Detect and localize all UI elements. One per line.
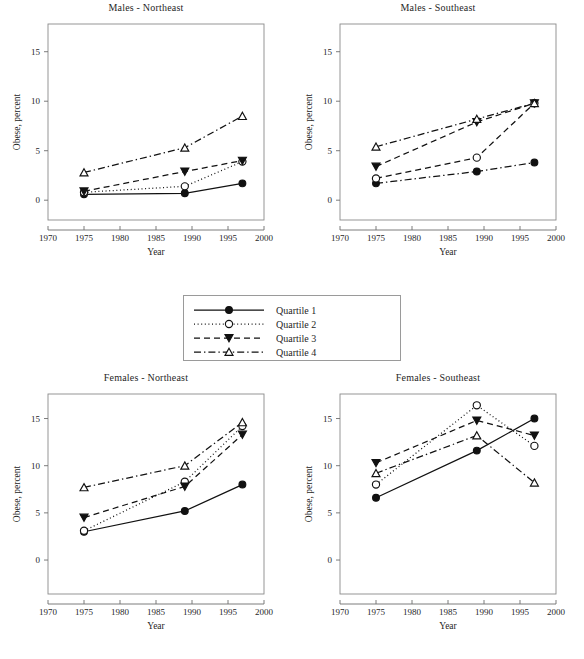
y-tick-label: 10 <box>323 461 333 471</box>
legend-box: Quartile 1Quartile 2Quartile 3Quartile 4 <box>183 295 401 361</box>
chart-svg: 0510151970197519801985199019952000YearOb… <box>292 2 584 274</box>
legend-item[interactable]: Quartile 1 <box>192 303 392 317</box>
data-point-marker <box>473 432 481 439</box>
x-tick-label: 1985 <box>439 233 458 243</box>
data-point-marker <box>373 494 380 501</box>
panel-title: Females - Northeast <box>0 372 292 383</box>
x-tick-label: 1985 <box>439 607 458 617</box>
x-tick-label: 1995 <box>219 607 238 617</box>
data-point-marker <box>372 481 379 488</box>
series-line <box>376 419 534 498</box>
x-tick-label: 1985 <box>147 607 166 617</box>
y-tick-label: 10 <box>323 96 333 106</box>
data-point-marker <box>239 180 246 187</box>
legend-label: Quartile 1 <box>266 305 316 316</box>
series-line <box>84 485 242 532</box>
x-tick-label: 1975 <box>367 607 386 617</box>
figure-canvas: Males - Northeast05101519701975198019851… <box>0 0 584 659</box>
series-line <box>376 103 534 147</box>
y-tick-label: 0 <box>328 195 333 205</box>
x-tick-label: 1995 <box>219 233 238 243</box>
x-axis-title: Year <box>147 247 165 257</box>
panel-title: Females - Southeast <box>292 372 584 383</box>
data-point-marker <box>80 514 88 521</box>
series-line <box>84 161 242 192</box>
x-tick-label: 2000 <box>255 233 274 243</box>
plot-frame <box>48 394 264 594</box>
data-point-marker <box>372 163 380 170</box>
y-tick-label: 15 <box>31 47 41 57</box>
x-tick-label: 1990 <box>183 607 202 617</box>
data-point-marker <box>238 431 246 438</box>
data-point-marker <box>238 419 246 426</box>
legend-item[interactable]: Quartile 4 <box>192 345 392 359</box>
data-point-marker <box>531 442 538 449</box>
series-line <box>84 183 242 194</box>
x-tick-label: 1970 <box>39 233 58 243</box>
data-point-marker <box>473 154 480 161</box>
x-tick-label: 1970 <box>331 233 350 243</box>
x-tick-label: 1980 <box>111 607 130 617</box>
data-point-marker <box>473 402 480 409</box>
y-tick-label: 0 <box>328 555 333 565</box>
series-line <box>376 103 534 166</box>
data-point-marker <box>372 459 380 466</box>
x-axis-title: Year <box>147 621 165 631</box>
legend-label: Quartile 2 <box>266 319 316 330</box>
chart-panel: Males - Northeast05101519701975198019851… <box>0 2 292 274</box>
x-tick-label: 1975 <box>367 233 386 243</box>
y-axis-title: Obese, percent <box>304 465 314 522</box>
data-point-marker <box>530 432 538 439</box>
x-axis-title: Year <box>439 247 457 257</box>
legend-sample <box>192 331 266 345</box>
data-point-marker <box>80 527 87 534</box>
y-tick-label: 5 <box>36 146 41 156</box>
x-axis-title: Year <box>439 621 457 631</box>
data-point-marker <box>239 481 246 488</box>
x-tick-label: 1970 <box>39 607 58 617</box>
y-axis-title: Obese, percent <box>12 465 22 522</box>
legend-marker <box>225 320 232 327</box>
y-tick-label: 15 <box>323 47 333 57</box>
data-point-marker <box>181 168 189 175</box>
data-point-marker <box>238 112 246 119</box>
legend-sample <box>192 345 266 359</box>
legend-marker <box>226 307 233 314</box>
chart-panel: Females - Northeast051015197019751980198… <box>0 372 292 659</box>
y-tick-label: 15 <box>323 414 333 424</box>
data-point-marker <box>531 415 538 422</box>
y-tick-label: 5 <box>328 146 333 156</box>
plot-frame <box>340 24 556 220</box>
y-tick-label: 10 <box>31 461 41 471</box>
chart-svg: 0510151970197519801985199019952000YearOb… <box>0 372 292 659</box>
y-tick-label: 5 <box>36 508 41 518</box>
y-tick-label: 0 <box>36 195 41 205</box>
y-axis-title: Obese, percent <box>304 93 314 150</box>
x-tick-label: 1980 <box>403 233 422 243</box>
x-tick-label: 1970 <box>331 607 350 617</box>
y-tick-label: 0 <box>36 555 41 565</box>
data-point-marker <box>531 159 538 166</box>
legend-item[interactable]: Quartile 2 <box>192 317 392 331</box>
x-tick-label: 1990 <box>183 233 202 243</box>
chart-svg: 0510151970197519801985199019952000YearOb… <box>292 372 584 659</box>
legend-sample <box>192 317 266 331</box>
x-tick-label: 1995 <box>511 607 530 617</box>
data-point-marker <box>372 175 379 182</box>
x-tick-label: 1980 <box>403 607 422 617</box>
x-tick-label: 2000 <box>547 607 566 617</box>
chart-panel: Females - Southeast051015197019751980198… <box>292 372 584 659</box>
series-line <box>376 420 534 462</box>
data-point-marker <box>181 144 189 151</box>
x-tick-label: 1975 <box>75 233 94 243</box>
legend-item[interactable]: Quartile 3 <box>192 331 392 345</box>
x-tick-label: 1990 <box>475 233 494 243</box>
x-tick-label: 1990 <box>475 607 494 617</box>
y-tick-label: 15 <box>31 414 41 424</box>
x-tick-label: 1980 <box>111 233 130 243</box>
chart-panel: Males - Southeast05101519701975198019851… <box>292 2 584 274</box>
panel-title: Males - Northeast <box>0 2 292 13</box>
data-point-marker <box>181 183 188 190</box>
y-tick-label: 5 <box>328 508 333 518</box>
series-line <box>376 436 534 483</box>
